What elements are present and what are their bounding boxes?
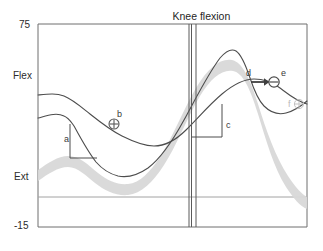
annotation-a-triangle bbox=[70, 124, 97, 158]
annotation-label-b: b bbox=[117, 110, 122, 119]
annotation-f-circle-plus-icon bbox=[294, 99, 303, 108]
annotation-label-a: a bbox=[64, 135, 69, 144]
annotation-e-circle-minus-icon bbox=[269, 77, 279, 87]
annotation-label-e: e bbox=[281, 69, 286, 78]
chart-title: Knee flexion bbox=[173, 11, 231, 22]
y-axis-top-label: 75 bbox=[19, 20, 30, 30]
annotation-label-d: d bbox=[246, 69, 251, 78]
y-axis-bottom-label: -15 bbox=[14, 221, 28, 231]
annotation-b-circle-plus-icon bbox=[109, 119, 119, 129]
annotation-label-f: f bbox=[288, 100, 291, 109]
knee-flexion-figure: Knee flexion 75 Flex Ext -15 a b c d e f bbox=[0, 0, 323, 251]
y-axis-ext-label: Ext bbox=[14, 172, 28, 182]
annotation-label-c: c bbox=[226, 121, 231, 130]
y-axis-flex-label: Flex bbox=[13, 71, 32, 81]
knee-flexion-plot bbox=[0, 0, 323, 251]
